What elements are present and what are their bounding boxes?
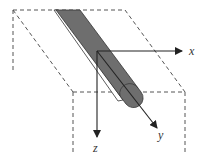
coordinate-diagram: x y z xyxy=(0,0,205,165)
diagram-canvas: x y z xyxy=(0,0,205,165)
y-axis-arrow xyxy=(97,51,157,128)
x-axis-label: x xyxy=(188,44,195,58)
z-axis-label: z xyxy=(92,141,98,155)
y-axis-label: y xyxy=(157,128,164,142)
